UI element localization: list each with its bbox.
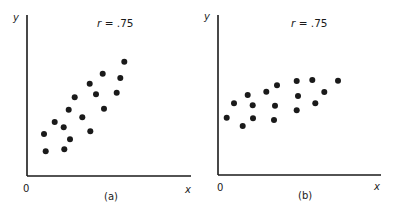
data-point — [87, 81, 93, 87]
y-axis-label-b: y — [203, 11, 211, 22]
data-point — [309, 77, 315, 83]
data-point — [93, 91, 99, 97]
x-axis-label-a: x — [184, 184, 191, 195]
data-point — [72, 94, 78, 100]
data-point — [274, 82, 280, 88]
data-point — [100, 71, 106, 77]
data-point — [67, 136, 73, 142]
data-point — [52, 119, 58, 125]
data-point — [117, 75, 123, 81]
data-point — [271, 117, 277, 123]
data-point — [79, 114, 85, 120]
y-axis-label-a: y — [12, 12, 20, 23]
annotation-b: r = .75 — [291, 17, 328, 29]
data-point — [66, 107, 72, 113]
data-point — [87, 128, 93, 134]
data-point — [335, 78, 341, 84]
data-point — [61, 146, 67, 152]
data-point — [263, 89, 269, 95]
x-axis-label-b: x — [373, 181, 380, 192]
data-point — [114, 90, 120, 96]
data-point — [231, 100, 237, 106]
data-point — [43, 148, 49, 154]
panel-label-a: (a) — [104, 191, 118, 202]
data-point — [245, 92, 251, 98]
data-point — [312, 100, 318, 106]
data-points-b — [224, 77, 341, 129]
scatter-panel-b: y r = .75 0 x (b) — [203, 11, 381, 201]
data-point — [61, 124, 67, 130]
panel-label-b: (b) — [298, 190, 312, 201]
origin-label-b: 0 — [217, 182, 223, 193]
figure-canvas: y r = .75 0 x (a) y r = .75 0 x (b) — [0, 0, 402, 209]
annotation-a: r = .75 — [97, 17, 134, 29]
data-point — [240, 123, 246, 129]
data-point — [101, 106, 107, 112]
data-point — [250, 115, 256, 121]
data-point — [121, 59, 127, 65]
data-points-a — [41, 59, 127, 155]
data-point — [41, 131, 47, 137]
data-point — [295, 93, 301, 99]
data-point — [321, 89, 327, 95]
origin-label-a: 0 — [23, 183, 29, 194]
data-point — [272, 103, 278, 109]
data-point — [294, 107, 300, 113]
data-point — [294, 78, 300, 84]
scatter-panel-a: y r = .75 0 x (a) — [12, 12, 191, 202]
data-point — [250, 102, 256, 108]
data-point — [224, 115, 230, 121]
